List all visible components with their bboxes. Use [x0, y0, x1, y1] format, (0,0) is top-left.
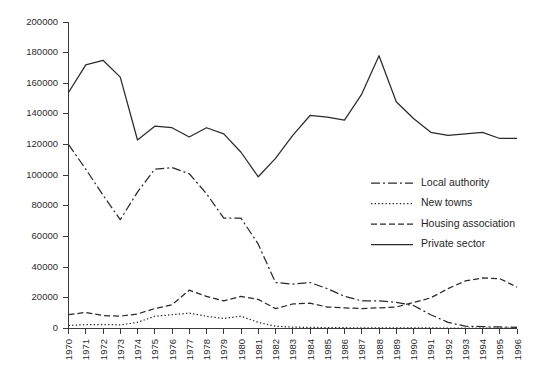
legend-label-local-authority: Local authority — [421, 176, 490, 188]
y-tick-label: 100000 — [26, 169, 58, 180]
x-tick-label: 1970 — [63, 339, 74, 360]
chart-legend: Local authorityNew townsHousing associat… — [371, 176, 515, 250]
x-tick-label: 1988 — [374, 339, 385, 360]
series-line-private-sector — [69, 56, 518, 177]
legend-label-housing-association: Housing association — [421, 217, 515, 229]
y-tick-label: 160000 — [26, 77, 58, 88]
legend-label-new-towns: New towns — [421, 196, 472, 208]
x-tick-label: 1975 — [149, 339, 160, 360]
x-tick-label: 1987 — [356, 339, 367, 360]
series-group — [69, 56, 518, 328]
x-tick-label: 1991 — [425, 339, 436, 360]
line-chart: 0200004000060000800001000001200001400001… — [0, 0, 540, 377]
y-tick-group: 0200004000060000800001000001200001400001… — [26, 16, 68, 334]
x-tick-label: 1993 — [460, 339, 471, 360]
y-tick-label: 200000 — [26, 16, 58, 27]
x-tick-label: 1983 — [287, 339, 298, 360]
x-tick-label: 1974 — [132, 339, 143, 360]
x-tick-label: 1989 — [391, 339, 402, 360]
x-tick-label: 1986 — [339, 339, 350, 360]
x-tick-label: 1985 — [322, 339, 333, 360]
x-tick-label: 1995 — [494, 339, 505, 360]
x-tick-label: 1996 — [512, 339, 523, 360]
x-tick-label: 1984 — [305, 339, 316, 360]
x-tick-label: 1982 — [270, 339, 281, 360]
x-tick-group: 1970197119721973197419751976197719781979… — [63, 329, 523, 361]
y-tick-label: 180000 — [26, 46, 58, 57]
y-tick-label: 0 — [53, 322, 58, 333]
series-line-new-towns — [69, 313, 518, 328]
x-tick-label: 1976 — [167, 339, 178, 360]
y-tick-label: 20000 — [32, 291, 58, 302]
x-tick-label: 1972 — [98, 339, 109, 360]
x-tick-label: 1973 — [115, 339, 126, 360]
y-tick-label: 140000 — [26, 107, 58, 118]
x-tick-label: 1979 — [218, 339, 229, 360]
y-tick-label: 80000 — [32, 199, 58, 210]
chart-page: 0200004000060000800001000001200001400001… — [0, 0, 540, 377]
y-tick-label: 120000 — [26, 138, 58, 149]
y-axis: 0200004000060000800001000001200001400001… — [26, 16, 68, 334]
x-tick-label: 1994 — [477, 339, 488, 360]
y-tick-label: 60000 — [32, 230, 58, 241]
x-tick-label: 1992 — [443, 339, 454, 360]
x-tick-label: 1981 — [253, 339, 264, 360]
legend-label-private-sector: Private sector — [421, 237, 486, 249]
y-tick-label: 40000 — [32, 261, 58, 272]
x-tick-label: 1990 — [408, 339, 419, 360]
x-tick-label: 1978 — [201, 339, 212, 360]
x-tick-label: 1971 — [80, 339, 91, 360]
series-line-local-authority — [69, 145, 518, 328]
x-tick-label: 1980 — [236, 339, 247, 360]
x-axis: 1970197119721973197419751976197719781979… — [63, 329, 523, 361]
x-tick-label: 1977 — [184, 339, 195, 360]
